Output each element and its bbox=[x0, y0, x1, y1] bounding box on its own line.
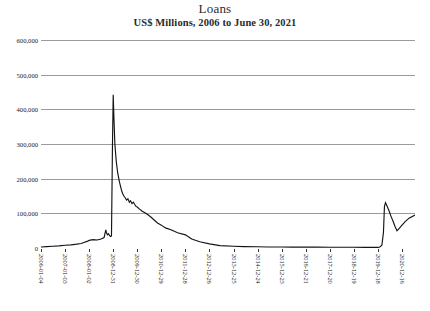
x-tick-mark bbox=[185, 249, 186, 252]
x-tick-mark bbox=[161, 249, 162, 252]
x-tick-label: 2015-12-23 bbox=[278, 254, 285, 284]
y-tick-label: 400,000 bbox=[0, 106, 38, 113]
x-tick-mark bbox=[209, 249, 210, 252]
chart-screenshot: Loans US$ Millions, 2006 to June 30, 202… bbox=[0, 0, 430, 311]
x-tick-label: 2014-12-24 bbox=[254, 254, 261, 284]
x-tick-label: 2012-12-26 bbox=[206, 254, 213, 284]
x-tick-mark bbox=[234, 249, 235, 252]
y-tick-label: 300,000 bbox=[0, 141, 38, 148]
x-tick-mark bbox=[41, 249, 42, 252]
y-tick-label: 500,000 bbox=[0, 71, 38, 78]
x-tick-mark bbox=[306, 249, 307, 252]
x-tick-mark bbox=[65, 249, 66, 252]
x-tick-mark bbox=[113, 249, 114, 252]
x-tick-label: 2019-12-18 bbox=[374, 254, 381, 284]
x-tick-mark bbox=[330, 249, 331, 252]
x-tick-label: 2020-12-16 bbox=[399, 254, 406, 284]
y-tick-label: 100,000 bbox=[0, 210, 38, 217]
plot-area bbox=[41, 40, 415, 248]
x-tick-label: 2008-01-02 bbox=[86, 254, 93, 284]
x-tick-label: 2010-12-29 bbox=[158, 254, 165, 284]
x-tick-label: 2016-12-21 bbox=[302, 254, 309, 284]
x-tick-label: 2008-12-31 bbox=[110, 254, 117, 284]
x-tick-label: 2007-01-03 bbox=[62, 254, 69, 284]
x-tick-mark bbox=[354, 249, 355, 252]
x-axis: 2006-01-042007-01-032008-01-022008-12-31… bbox=[41, 249, 415, 311]
x-tick-label: 2018-12-19 bbox=[350, 254, 357, 284]
x-tick-mark bbox=[402, 249, 403, 252]
y-tick-label: 0 bbox=[0, 245, 38, 252]
x-tick-mark bbox=[137, 249, 138, 252]
y-tick-label: 600,000 bbox=[0, 37, 38, 44]
chart-subtitle: US$ Millions, 2006 to June 30, 2021 bbox=[0, 17, 430, 28]
x-tick-mark bbox=[258, 249, 259, 252]
data-series-loans bbox=[41, 40, 415, 248]
x-tick-label: 2017-12-20 bbox=[326, 254, 333, 284]
y-tick-label: 200,000 bbox=[0, 175, 38, 182]
page-title: Loans bbox=[0, 1, 430, 17]
y-axis: 600,000500,000400,000300,000200,000100,0… bbox=[0, 40, 38, 248]
x-tick-label: 2009-12-30 bbox=[134, 254, 141, 284]
x-tick-label: 2013-12-25 bbox=[230, 254, 237, 284]
series-line-loans bbox=[41, 95, 415, 248]
x-tick-label: 2011-12-28 bbox=[182, 254, 189, 284]
x-tick-mark bbox=[378, 249, 379, 252]
x-tick-mark bbox=[89, 249, 90, 252]
x-tick-mark bbox=[282, 249, 283, 252]
x-tick-label: 2006-01-04 bbox=[38, 254, 45, 284]
